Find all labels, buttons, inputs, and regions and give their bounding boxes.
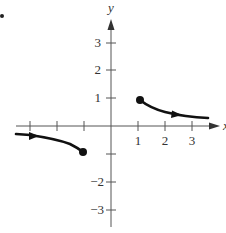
y-tick-label-2: 2 <box>95 62 102 77</box>
x-tick-label-1: 1 <box>135 133 142 148</box>
chart: 1 2 3 x y 3 2 1 −2 −3 <box>0 0 226 233</box>
y-tick-label-neg2: −2 <box>90 174 104 189</box>
x-tick-label-2: 2 <box>162 133 169 148</box>
bullet-marker <box>0 14 4 18</box>
direction-arrow-icon <box>29 132 39 140</box>
y-axis <box>106 19 116 227</box>
y-axis-label: y <box>106 0 114 15</box>
closed-endpoint <box>136 96 144 104</box>
y-tick-label-neg3: −3 <box>90 202 104 217</box>
right-branch-curve <box>136 96 208 118</box>
y-tick-label-3: 3 <box>95 35 102 50</box>
x-tick-label-3: 3 <box>189 133 196 148</box>
closed-endpoint <box>79 148 87 156</box>
x-axis-label: x <box>222 118 226 133</box>
left-branch-curve <box>16 132 87 156</box>
x-axis <box>16 121 220 131</box>
y-tick-label-1: 1 <box>95 90 102 105</box>
